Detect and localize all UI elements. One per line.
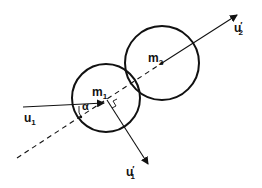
label-u2-prime: u′2 bbox=[234, 22, 243, 34]
collision-diagram bbox=[0, 0, 262, 188]
u1-vector bbox=[23, 103, 104, 107]
angle-alpha-dot bbox=[80, 116, 82, 118]
label-m1: m1 bbox=[92, 86, 107, 98]
angle-alpha-arc bbox=[79, 106, 81, 117]
label-m2: m2 bbox=[148, 52, 163, 64]
line-of-centers-dashed bbox=[17, 63, 162, 158]
label-alpha: α bbox=[82, 101, 89, 112]
label-u1-prime: u′1 bbox=[126, 166, 135, 178]
right-angle-marker bbox=[112, 99, 117, 108]
label-u1: u1 bbox=[24, 112, 36, 124]
u2-prime-vector bbox=[162, 15, 237, 63]
